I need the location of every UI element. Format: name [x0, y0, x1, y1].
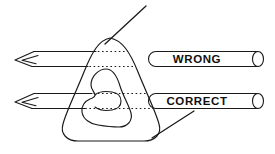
lower-needle — [15, 94, 92, 109]
upper-needle-bevel — [22, 56, 38, 64]
wrong-rod-end-cap — [253, 52, 264, 67]
upper-needle — [15, 52, 96, 67]
lower-leader-line — [152, 111, 194, 138]
diagram-canvas: WRONG CORRECT — [0, 0, 275, 154]
upper-leader-line — [105, 6, 146, 44]
outer-cross-section-outline — [62, 38, 159, 141]
correct-label: CORRECT — [166, 95, 227, 107]
diagram-figure: WRONG CORRECT — [0, 0, 275, 154]
correct-rod-end-cap — [253, 94, 264, 109]
lower-needle-bevel — [22, 98, 38, 106]
inner-notch-detail — [95, 92, 121, 111]
inner-cross-section-outline — [82, 69, 132, 127]
wrong-label: WRONG — [173, 53, 221, 65]
